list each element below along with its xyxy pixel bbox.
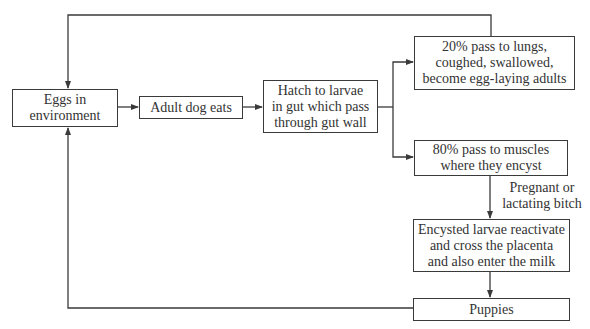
node-puppies: Puppies [413, 298, 570, 321]
node-pass-to-lungs: 20% pass to lungs, coughed, swallowed, b… [414, 36, 575, 90]
node-pass-to-muscles: 80% pass to muscles where they encyst [414, 140, 568, 176]
node-encysted-larvae-reactivate: Encysted larvae reactivate and cross the… [413, 219, 570, 272]
node-eggs-in-environment: Eggs in environment [12, 89, 118, 127]
node-adult-dog-eats: Adult dog eats [139, 96, 243, 119]
node-hatch-to-larvae: Hatch to larvae in gut which pass throug… [263, 80, 378, 133]
arrow-puppies-to-eggs [68, 128, 413, 308]
arrow-hatch-to-lungs [393, 62, 413, 107]
life-cycle-diagram: Eggs in environment Adult dog eats Hatch… [0, 0, 590, 329]
edge-label-pregnant-or-lactating: Pregnant or lactating bitch [494, 180, 590, 212]
arrow-hatch-to-muscles [393, 107, 413, 157]
